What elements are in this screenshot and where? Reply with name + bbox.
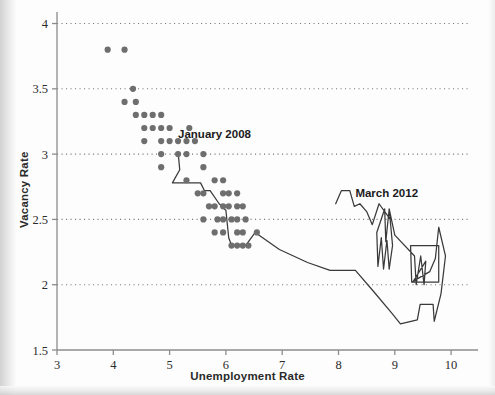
- scatter-point: [226, 190, 232, 196]
- scatter-point: [240, 242, 246, 248]
- y-tick-label: 4: [42, 17, 49, 31]
- scatter-point: [206, 203, 212, 209]
- scatter-point: [212, 177, 218, 183]
- beveridge-curve-chart: 1.522.533.54 345678910 January 2008March…: [0, 0, 495, 395]
- scatter-point: [200, 216, 206, 222]
- scatter-point: [212, 229, 218, 235]
- scatter-point: [220, 203, 226, 209]
- scatter-point: [121, 99, 127, 105]
- scatter-point: [214, 216, 220, 222]
- scatter-point: [240, 229, 246, 235]
- scatter-point: [133, 99, 139, 105]
- scatter-point: [183, 177, 189, 183]
- scatter-point: [234, 203, 240, 209]
- scatter-point: [195, 190, 201, 196]
- scatter-point: [228, 216, 234, 222]
- scatter-point: [158, 112, 164, 118]
- y-tick-label: 3.5: [32, 82, 48, 96]
- y-tick-label: 3: [42, 148, 48, 162]
- scatter-point: [130, 86, 136, 92]
- scatter-point: [254, 229, 260, 235]
- scatter-point: [105, 47, 111, 53]
- scatter-point: [220, 229, 226, 235]
- annotation-label: March 2012: [355, 187, 418, 199]
- scatter-point: [200, 164, 206, 170]
- y-axis-ticks: 1.522.533.54: [32, 17, 57, 357]
- annotation-label: January 2008: [178, 128, 251, 140]
- y-tick-label: 1.5: [32, 344, 48, 358]
- scatter-point: [220, 177, 226, 183]
- scatter-point: [133, 112, 139, 118]
- scatter-point: [158, 151, 164, 157]
- y-tick-label: 2: [42, 278, 48, 292]
- scatter-point: [234, 190, 240, 196]
- scatter-point: [158, 125, 164, 131]
- scatter-points: [105, 47, 260, 249]
- scatter-point: [240, 203, 246, 209]
- scatter-point: [220, 216, 226, 222]
- x-axis-ticks: 345678910: [54, 350, 457, 372]
- chart-annotations: January 2008March 2012: [178, 128, 418, 199]
- scatter-point: [167, 138, 173, 144]
- scatter-point: [234, 216, 240, 222]
- x-axis-label: Unemployment Rate: [0, 370, 495, 382]
- scatter-point: [234, 242, 240, 248]
- scatter-point: [150, 112, 156, 118]
- scatter-point: [141, 125, 147, 131]
- scatter-point: [175, 151, 181, 157]
- scatter-point: [226, 203, 232, 209]
- y-tick-label: 2.5: [32, 213, 48, 227]
- scanned-page: 1.522.533.54 345678910 January 2008March…: [0, 0, 495, 395]
- scatter-point: [200, 190, 206, 196]
- scatter-point: [121, 47, 127, 53]
- scatter-point: [158, 164, 164, 170]
- scatter-point: [200, 151, 206, 157]
- scatter-point: [234, 229, 240, 235]
- scatter-point: [150, 125, 156, 131]
- y-axis-label: Vacancy Rate: [18, 108, 30, 228]
- axes: [57, 12, 478, 350]
- scatter-point: [141, 138, 147, 144]
- scatter-point: [158, 138, 164, 144]
- scatter-point: [167, 125, 173, 131]
- chart-canvas: 1.522.533.54 345678910 January 2008March…: [0, 0, 495, 395]
- gridlines: [57, 24, 468, 285]
- time-path-line: [172, 152, 445, 324]
- scatter-point: [141, 112, 147, 118]
- scatter-point: [183, 151, 189, 157]
- scatter-point: [220, 190, 226, 196]
- scatter-point: [212, 203, 218, 209]
- scatter-point: [243, 216, 249, 222]
- scatter-point: [245, 242, 251, 248]
- scatter-point: [228, 242, 234, 248]
